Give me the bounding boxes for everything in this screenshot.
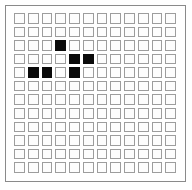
- grid-cell[interactable]: [151, 66, 165, 80]
- grid-cell[interactable]: [68, 66, 82, 80]
- grid-cell[interactable]: [68, 148, 82, 162]
- grid-cell[interactable]: [82, 66, 96, 80]
- grid-cell[interactable]: [123, 39, 137, 53]
- grid-cell[interactable]: [82, 121, 96, 135]
- grid-cell[interactable]: [13, 80, 27, 94]
- grid-cell[interactable]: [151, 107, 165, 121]
- grid-cell[interactable]: [13, 12, 27, 26]
- grid-cell[interactable]: [13, 93, 27, 107]
- grid-cell[interactable]: [109, 26, 123, 40]
- grid-cell[interactable]: [123, 26, 137, 40]
- grid-cell[interactable]: [123, 134, 137, 148]
- grid-cell[interactable]: [109, 161, 123, 175]
- grid-cell[interactable]: [164, 66, 178, 80]
- grid-cell[interactable]: [151, 121, 165, 135]
- grid-cell[interactable]: [96, 93, 110, 107]
- grid-cell[interactable]: [54, 53, 68, 67]
- grid-cell[interactable]: [123, 53, 137, 67]
- grid-cell[interactable]: [123, 161, 137, 175]
- grid-cell[interactable]: [27, 80, 41, 94]
- grid-cell[interactable]: [27, 161, 41, 175]
- grid-cell[interactable]: [123, 107, 137, 121]
- grid-cell[interactable]: [41, 121, 55, 135]
- grid-cell[interactable]: [109, 134, 123, 148]
- grid-cell[interactable]: [164, 161, 178, 175]
- grid-cell[interactable]: [137, 134, 151, 148]
- grid-cell[interactable]: [68, 121, 82, 135]
- grid-cell[interactable]: [27, 26, 41, 40]
- grid-cell[interactable]: [164, 53, 178, 67]
- grid-cell[interactable]: [137, 107, 151, 121]
- grid-cell[interactable]: [27, 39, 41, 53]
- grid-cell[interactable]: [68, 12, 82, 26]
- grid-cell[interactable]: [109, 107, 123, 121]
- grid-cell[interactable]: [13, 107, 27, 121]
- grid-cell[interactable]: [54, 26, 68, 40]
- grid-cell[interactable]: [151, 26, 165, 40]
- grid-cell[interactable]: [82, 161, 96, 175]
- grid-cell[interactable]: [54, 121, 68, 135]
- grid-cell[interactable]: [82, 39, 96, 53]
- grid-cell[interactable]: [13, 66, 27, 80]
- grid-cell[interactable]: [41, 93, 55, 107]
- grid-cell[interactable]: [96, 80, 110, 94]
- grid-cell[interactable]: [54, 93, 68, 107]
- grid-cell[interactable]: [164, 26, 178, 40]
- grid-cell[interactable]: [109, 80, 123, 94]
- grid-cell[interactable]: [164, 93, 178, 107]
- grid-cell[interactable]: [41, 66, 55, 80]
- grid-cell[interactable]: [41, 53, 55, 67]
- grid-cell[interactable]: [82, 12, 96, 26]
- grid-cell[interactable]: [137, 66, 151, 80]
- grid-cell[interactable]: [164, 80, 178, 94]
- grid-cell[interactable]: [27, 134, 41, 148]
- grid-cell[interactable]: [137, 53, 151, 67]
- grid-cell[interactable]: [109, 12, 123, 26]
- grid-cell[interactable]: [27, 12, 41, 26]
- grid-cell[interactable]: [96, 148, 110, 162]
- grid-cell[interactable]: [82, 26, 96, 40]
- grid-cell[interactable]: [41, 148, 55, 162]
- grid-cell[interactable]: [96, 12, 110, 26]
- grid-cell[interactable]: [137, 161, 151, 175]
- grid-cell[interactable]: [151, 148, 165, 162]
- grid-cell[interactable]: [54, 80, 68, 94]
- grid-cell[interactable]: [96, 107, 110, 121]
- grid-cell[interactable]: [137, 93, 151, 107]
- grid-cell[interactable]: [68, 53, 82, 67]
- grid-cell[interactable]: [54, 66, 68, 80]
- grid-cell[interactable]: [27, 53, 41, 67]
- grid-cell[interactable]: [164, 12, 178, 26]
- grid-cell[interactable]: [27, 66, 41, 80]
- grid-cell[interactable]: [13, 161, 27, 175]
- grid-cell[interactable]: [151, 161, 165, 175]
- grid-cell[interactable]: [151, 12, 165, 26]
- grid-cell[interactable]: [82, 93, 96, 107]
- grid-cell[interactable]: [96, 121, 110, 135]
- grid-cell[interactable]: [164, 107, 178, 121]
- grid-cell[interactable]: [109, 148, 123, 162]
- grid-cell[interactable]: [164, 148, 178, 162]
- grid-cell[interactable]: [151, 53, 165, 67]
- grid-cell[interactable]: [13, 39, 27, 53]
- grid-cell[interactable]: [164, 121, 178, 135]
- grid-cell[interactable]: [41, 39, 55, 53]
- grid-cell[interactable]: [82, 107, 96, 121]
- grid-cell[interactable]: [164, 39, 178, 53]
- grid-cell[interactable]: [123, 12, 137, 26]
- grid-cell[interactable]: [54, 148, 68, 162]
- grid-cell[interactable]: [96, 134, 110, 148]
- grid-cell[interactable]: [96, 53, 110, 67]
- grid-cell[interactable]: [109, 121, 123, 135]
- grid-cell[interactable]: [137, 121, 151, 135]
- grid-cell[interactable]: [151, 134, 165, 148]
- grid-cell[interactable]: [68, 26, 82, 40]
- cell-grid[interactable]: [13, 12, 178, 175]
- grid-cell[interactable]: [27, 121, 41, 135]
- grid-cell[interactable]: [109, 66, 123, 80]
- grid-cell[interactable]: [68, 161, 82, 175]
- grid-cell[interactable]: [54, 39, 68, 53]
- grid-cell[interactable]: [13, 148, 27, 162]
- grid-cell[interactable]: [13, 134, 27, 148]
- grid-cell[interactable]: [41, 80, 55, 94]
